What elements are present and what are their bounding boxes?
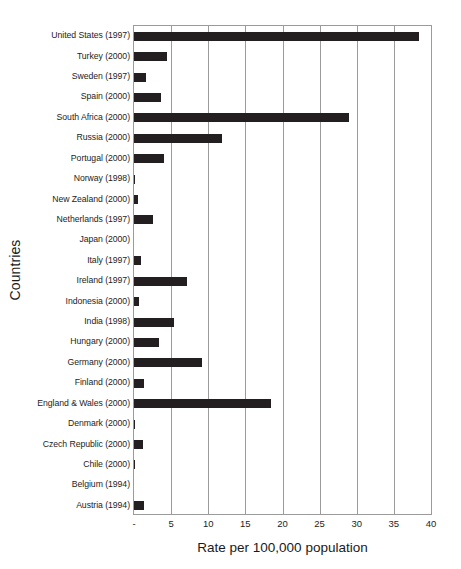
category-label: Netherlands (1997) bbox=[26, 214, 130, 224]
bar bbox=[134, 277, 187, 286]
x-tick-label: 25 bbox=[314, 518, 325, 529]
bar bbox=[134, 256, 141, 265]
category-label: Belgium (1994) bbox=[26, 479, 130, 489]
bar bbox=[134, 358, 202, 367]
category-label: India (1998) bbox=[26, 316, 130, 326]
bar bbox=[134, 134, 222, 143]
bar bbox=[134, 195, 138, 204]
category-label: Indonesia (2000) bbox=[26, 296, 130, 306]
category-label: Austria (1994) bbox=[26, 500, 130, 510]
x-axis-title: Rate per 100,000 population bbox=[133, 540, 432, 555]
category-label: South Africa (2000) bbox=[26, 112, 130, 122]
x-tick-label: 40 bbox=[426, 518, 437, 529]
category-label: Hungary (2000) bbox=[26, 336, 130, 346]
category-label: Germany (2000) bbox=[26, 357, 130, 367]
category-label: Turkey (2000) bbox=[26, 51, 130, 61]
y-axis-title-label: Countries bbox=[7, 240, 23, 301]
x-tick-label: 35 bbox=[389, 518, 400, 529]
gridline bbox=[357, 26, 358, 514]
category-label: Russia (2000) bbox=[26, 132, 130, 142]
bar bbox=[134, 440, 143, 449]
category-label: Sweden (1997) bbox=[26, 71, 130, 81]
x-tick-label: 15 bbox=[240, 518, 251, 529]
category-label: Czech Republic (2000) bbox=[26, 439, 130, 449]
x-tick-label: 30 bbox=[351, 518, 362, 529]
gridline bbox=[394, 26, 395, 514]
gridline bbox=[431, 26, 432, 514]
x-tick-label: 5 bbox=[168, 518, 173, 529]
bar bbox=[134, 154, 164, 163]
gridline bbox=[245, 26, 246, 514]
category-label: Ireland (1997) bbox=[26, 275, 130, 285]
gridline bbox=[283, 26, 284, 514]
category-label: Italy (1997) bbox=[26, 255, 130, 265]
x-axis-ticks: -510152025303540 bbox=[133, 518, 432, 534]
category-label: New Zealand (2000) bbox=[26, 194, 130, 204]
category-label: England & Wales (2000) bbox=[26, 398, 130, 408]
bar bbox=[134, 73, 146, 82]
bar bbox=[134, 379, 144, 388]
gridline bbox=[320, 26, 321, 514]
bar bbox=[134, 113, 349, 122]
category-label: Chile (2000) bbox=[26, 459, 130, 469]
category-label: United States (1997) bbox=[26, 30, 130, 40]
bar bbox=[134, 501, 144, 510]
chart-page: Countries United States (1997)Turkey (20… bbox=[0, 0, 461, 569]
bar bbox=[134, 32, 419, 41]
category-label: Japan (2000) bbox=[26, 234, 130, 244]
bar bbox=[134, 460, 135, 469]
gridline bbox=[208, 26, 209, 514]
category-label: Finland (2000) bbox=[26, 377, 130, 387]
bar bbox=[134, 215, 153, 224]
gridline bbox=[171, 26, 172, 514]
category-axis-labels: United States (1997)Turkey (2000)Sweden … bbox=[26, 25, 130, 515]
category-label: Spain (2000) bbox=[26, 91, 130, 101]
bar bbox=[134, 93, 161, 102]
category-label: Denmark (2000) bbox=[26, 418, 130, 428]
bar bbox=[134, 318, 174, 327]
bar bbox=[134, 338, 159, 347]
category-label: Norway (1998) bbox=[26, 173, 130, 183]
bar bbox=[134, 297, 139, 306]
x-tick-label: - bbox=[132, 518, 135, 529]
bar bbox=[134, 420, 135, 429]
category-label: Portugal (2000) bbox=[26, 153, 130, 163]
plot-area bbox=[133, 25, 432, 515]
bar bbox=[134, 399, 271, 408]
x-tick-label: 20 bbox=[277, 518, 288, 529]
x-tick-label: 10 bbox=[203, 518, 214, 529]
bar bbox=[134, 175, 135, 184]
bar bbox=[134, 52, 167, 61]
